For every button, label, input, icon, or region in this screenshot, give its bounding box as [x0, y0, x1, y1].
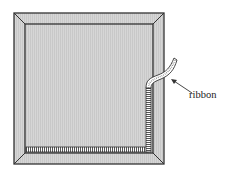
inner-panel: [25, 24, 153, 153]
ribbon-right: [146, 88, 151, 152]
ribbon-bottom: [26, 147, 148, 152]
ribbon-label: ribbon: [189, 90, 216, 101]
frame-diagram: [0, 0, 236, 173]
